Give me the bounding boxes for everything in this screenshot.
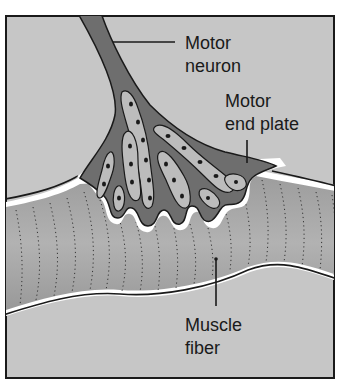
label-muscle-fiber: Muscle xyxy=(185,315,242,335)
label-muscle-fiber-line2: fiber xyxy=(185,338,220,358)
label-motor-neuron-line2: neuron xyxy=(185,56,241,76)
muscle-fiber-leader-dot xyxy=(214,257,218,261)
label-motor-end-plate-line2: end plate xyxy=(225,114,299,134)
label-motor-end-plate: Motor xyxy=(225,91,271,111)
label-motor-neuron: Motor xyxy=(185,33,231,53)
neuromuscular-junction-diagram: Motor neuron Motor end plate Muscle fibe… xyxy=(0,0,341,386)
